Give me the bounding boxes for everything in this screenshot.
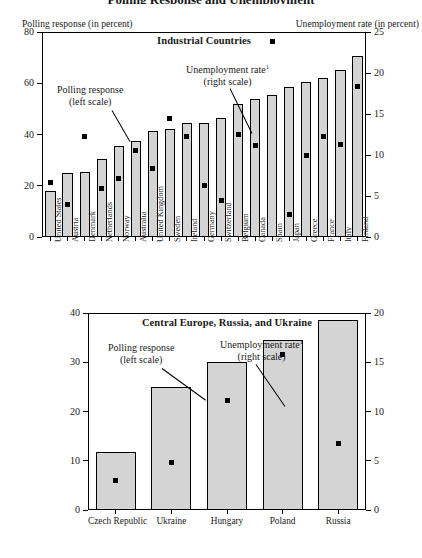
y2-axis-tick-label: 20	[374, 308, 384, 318]
annotation-unemployment-rate-bottom: Unemployment rate1 (right scale)	[220, 337, 303, 362]
x-axis-tick	[338, 510, 339, 514]
x-axis-tick	[67, 237, 68, 241]
x-axis-tick	[255, 237, 256, 241]
y2-axis-tick-label: 5	[374, 191, 379, 201]
x-axis-tick	[306, 237, 307, 241]
data-point-square	[65, 202, 70, 207]
y-axis-tick	[83, 411, 88, 412]
x-axis-category-label: Ukraine	[144, 516, 200, 526]
x-axis-category-label: France	[327, 219, 336, 242]
x-axis-tick	[135, 237, 136, 241]
y2-axis-tick-label: 20	[374, 68, 384, 78]
annotation-line-1: Unemployment rate	[186, 64, 266, 75]
x-axis-tick	[357, 237, 358, 241]
y2-axis-tick-label: 15	[374, 357, 384, 367]
x-axis-category-label: Canada	[258, 217, 267, 242]
top-right-axis-caption: Unemployment rate (in percent)	[296, 18, 419, 29]
x-axis-category-label: Netherlands	[105, 202, 114, 242]
x-axis-category-label: Denmark	[88, 211, 97, 242]
y-axis-tick	[37, 83, 42, 84]
annotation-line-1: Unemployment rate	[220, 339, 300, 350]
y-axis-tick-label: 0	[0, 232, 34, 242]
data-point-square	[225, 398, 230, 403]
data-point-square	[287, 212, 292, 217]
y-axis-tick-label: 0	[0, 505, 80, 515]
x-axis-tick	[340, 237, 341, 241]
y2-axis-tick-label: 0	[374, 505, 379, 515]
x-axis-category-label: United States	[54, 198, 63, 242]
data-point-square	[113, 478, 118, 483]
x-axis-tick	[323, 237, 324, 241]
top-left-axis-caption: Polling response (in percent)	[22, 18, 133, 29]
data-point-square	[82, 134, 87, 139]
y-axis-tick-label: 10	[0, 456, 80, 466]
x-axis-category-label: Italy	[344, 227, 353, 242]
y-axis-tick-label: 40	[0, 308, 80, 318]
x-axis-category-label: Spain	[275, 223, 284, 242]
chart-title-industrial: Industrial Countries	[43, 35, 365, 46]
bar	[318, 78, 328, 237]
bar	[267, 95, 277, 237]
y2-axis-tick	[366, 510, 371, 511]
annotation-line-2: (left scale)	[120, 354, 162, 365]
x-axis-category-label: Czech Republic	[88, 516, 144, 526]
x-axis-tick	[152, 237, 153, 241]
y2-axis-tick	[366, 362, 371, 363]
y2-axis-tick-label: 5	[374, 456, 379, 466]
x-axis-category-label: Finland	[361, 217, 370, 242]
x-axis-tick	[238, 237, 239, 241]
y2-axis-tick-label: 0	[374, 232, 379, 242]
x-axis-category-label: Sweden	[173, 216, 182, 242]
data-point-square	[116, 176, 121, 181]
data-point-square	[169, 460, 174, 465]
data-point-square	[304, 153, 309, 158]
y-axis-tick	[37, 237, 42, 238]
x-axis-category-label: Germany	[207, 211, 216, 242]
bar	[335, 70, 345, 237]
y2-axis-tick	[366, 32, 371, 33]
y2-axis-tick	[366, 313, 371, 314]
data-point-square	[133, 148, 138, 153]
bar	[207, 362, 247, 510]
y2-axis-tick	[366, 114, 371, 115]
x-axis-category-label: Ireland	[190, 219, 199, 243]
annotation-line-2: (left scale)	[69, 96, 111, 107]
annotation-line-2: (right scale)	[238, 351, 286, 362]
data-point-square	[48, 180, 53, 185]
y-axis-tick	[83, 460, 88, 461]
annotation-line-1: Polling response	[57, 84, 123, 95]
bar	[318, 320, 358, 510]
y-axis-tick-label: 60	[0, 78, 34, 88]
x-axis-tick	[221, 237, 222, 241]
x-axis-tick	[115, 510, 116, 514]
y2-axis-tick-label: 10	[374, 150, 384, 160]
y-axis-tick-label: 30	[0, 357, 80, 367]
data-point-square	[338, 142, 343, 147]
y-axis-tick-label: 80	[0, 27, 34, 37]
y-axis-tick	[83, 313, 88, 314]
x-axis-tick	[101, 237, 102, 241]
x-axis-category-label: Japan	[292, 223, 301, 242]
data-point-square	[270, 39, 275, 44]
annotation-unemployment-rate-top: Unemployment rate1 (right scale)	[186, 62, 269, 87]
x-axis-tick	[169, 237, 170, 241]
figure-cut-title: Polling Response and Unemployment	[0, 0, 422, 4]
data-point-square	[184, 134, 189, 139]
data-point-square	[202, 183, 207, 188]
annotation-polling-response-top: Polling response (left scale)	[57, 84, 123, 107]
x-axis-category-label: Greece	[310, 219, 319, 243]
data-point-square	[236, 132, 241, 137]
x-axis-tick	[204, 237, 205, 241]
x-axis-tick	[272, 237, 273, 241]
x-axis-category-label: Australia	[139, 212, 148, 242]
y-axis-tick	[83, 510, 88, 511]
data-point-square	[150, 166, 155, 171]
x-axis-category-label: Switzerland	[224, 202, 233, 242]
x-axis-tick	[227, 510, 228, 514]
y2-axis-tick	[366, 196, 371, 197]
y-axis-tick	[83, 362, 88, 363]
bar	[151, 387, 191, 510]
annotation-footnote-marker: 1	[266, 63, 270, 71]
data-point-square	[336, 441, 341, 446]
data-point-square	[99, 186, 104, 191]
